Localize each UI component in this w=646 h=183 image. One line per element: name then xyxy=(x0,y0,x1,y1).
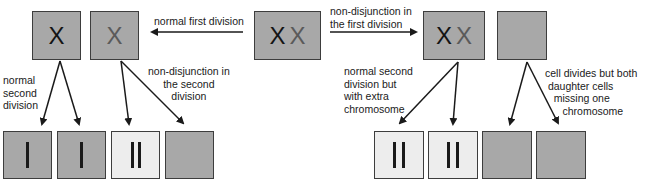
chromosome-bar xyxy=(138,142,141,168)
chromosome-bar xyxy=(447,142,450,168)
daughter-cell-r1-extra xyxy=(374,131,424,179)
label-normal-second-division: normal second division xyxy=(3,74,38,112)
daughter-cell-r3-empty xyxy=(482,131,532,179)
chromosome-x: X xyxy=(106,24,122,48)
arrow-a-to-d2 xyxy=(60,61,79,124)
daughter-cell-r2-extra xyxy=(428,131,478,179)
arrow-b-to-d3 xyxy=(121,61,129,124)
chromosome-bar xyxy=(402,142,405,168)
chromosome-bar xyxy=(80,142,83,168)
chromosome-x: X xyxy=(290,24,306,48)
daughter-cell-l3-extra xyxy=(111,131,160,179)
label-nondisjunction-first-division: non-disjunction in the first division xyxy=(330,5,412,30)
daughter-cell-l1 xyxy=(3,131,52,179)
arrow-d-to-r2 xyxy=(453,62,458,124)
chromosome-bar xyxy=(131,142,134,168)
label-extra-chromosome: normal second division but with extra ch… xyxy=(344,65,413,115)
chromosome-bar xyxy=(393,142,396,168)
arrow-e-to-r3 xyxy=(510,62,527,124)
chromosome-bar xyxy=(456,142,459,168)
label-missing-chromosome: cell divides but both daughter cells mis… xyxy=(545,67,637,117)
label-normal-first-division: normal first division xyxy=(154,15,244,28)
cell-left-b: X xyxy=(90,11,139,60)
parent-cell: X X xyxy=(254,11,321,60)
daughter-cell-l2 xyxy=(57,131,106,179)
label-nondisjunction-second-division: non-disjunction in the second division xyxy=(148,65,230,103)
daughter-cell-r4-empty xyxy=(536,131,586,179)
cell-right-d: X X xyxy=(423,11,485,60)
daughter-cell-l4-empty xyxy=(165,131,214,179)
cell-right-e-empty xyxy=(497,11,547,60)
cell-left-a: X xyxy=(32,11,81,60)
chromosome-x: X xyxy=(456,24,472,48)
chromosome-bar xyxy=(26,142,29,168)
chromosome-x: X xyxy=(48,24,64,48)
chromosome-x: X xyxy=(269,24,285,48)
arrow-a-to-d1 xyxy=(42,61,60,124)
chromosome-x: X xyxy=(436,24,452,48)
